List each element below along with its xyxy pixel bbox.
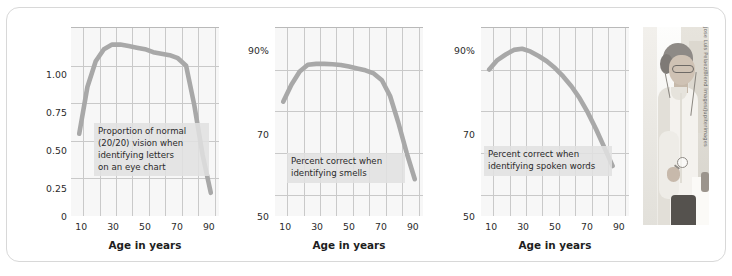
xtick-hearing-3: 50	[543, 221, 567, 232]
xtick-vision-3: 50	[133, 221, 157, 232]
xtick-smell-2: 30	[305, 221, 329, 232]
annotation-smell: Percent correct when identifying smells	[287, 153, 405, 183]
xaxis-label-vision: Age in years	[71, 239, 219, 251]
plot-area-vision: Proportion of normal (20/20) vision when…	[71, 27, 219, 216]
xaxis-label-hearing: Age in years	[481, 239, 629, 251]
plot-area-smell: Percent correct when identifying smells	[275, 27, 423, 216]
ytick-smell-1: 90%	[225, 45, 269, 56]
xtick-smell-3: 50	[337, 221, 361, 232]
annotation-vision: Proportion of normal (20/20) vision when…	[94, 123, 209, 176]
xtick-hearing-1: 10	[479, 221, 503, 232]
xtick-hearing-4: 70	[575, 221, 599, 232]
xtick-smell-1: 10	[273, 221, 297, 232]
xtick-vision-2: 30	[101, 221, 125, 232]
chart-vision: Proportion of normal (20/20) vision when…	[13, 8, 227, 263]
ytick-hearing-3: 50	[431, 211, 475, 222]
figure-panel: Proportion of normal (20/20) vision when…	[6, 7, 726, 262]
xtick-smell-5: 90	[401, 221, 425, 232]
ytick-vision-4: 0.25	[19, 183, 67, 194]
xtick-vision-5: 90	[197, 221, 221, 232]
photo-credit: Jose Luis Pelaez/Blend Images/Jupiterima…	[701, 27, 711, 225]
eyeglasses-icon	[672, 65, 694, 73]
xtick-hearing-2: 30	[511, 221, 535, 232]
ytick-vision-1: 1.00	[19, 69, 67, 80]
ytick-smell-3: 50	[225, 211, 269, 222]
photo-elderly-woman	[643, 27, 709, 225]
plot-area-hearing: Percent correct when identifying spoken …	[481, 27, 629, 216]
chart-smell: Percent correct when identifying smells …	[225, 8, 433, 263]
xtick-smell-4: 70	[369, 221, 393, 232]
ytick-vision-2: 0.75	[19, 107, 67, 118]
xaxis-label-smell: Age in years	[275, 239, 423, 251]
ytick-smell-2: 70	[225, 129, 269, 140]
photo-frame	[643, 27, 709, 225]
ytick-hearing-2: 70	[431, 129, 475, 140]
xtick-vision-1: 10	[69, 221, 93, 232]
ytick-vision-5: 0	[19, 211, 67, 222]
ytick-hearing-1: 90%	[431, 45, 475, 56]
hearing-curve	[481, 28, 629, 217]
ytick-vision-3: 0.50	[19, 145, 67, 156]
chart-hearing: Percent correct when identifying spoken …	[431, 8, 639, 263]
smell-curve	[275, 28, 423, 217]
xtick-vision-4: 70	[165, 221, 189, 232]
annotation-hearing: Percent correct when identifying spoken …	[484, 146, 612, 176]
xtick-hearing-5: 90	[607, 221, 631, 232]
